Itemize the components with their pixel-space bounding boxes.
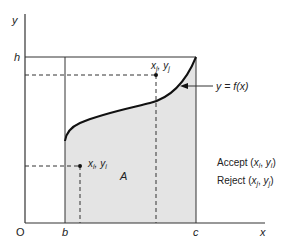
shaded-area-a xyxy=(65,57,196,223)
origin-label: O xyxy=(16,226,25,238)
b-label: b xyxy=(62,226,68,238)
reject-legend: Reject (xj, yj) xyxy=(217,175,274,188)
accepted-point-marker xyxy=(78,164,82,168)
c-label: c xyxy=(193,226,199,238)
accepted-point-label: xi, yi xyxy=(87,158,107,170)
h-label: h xyxy=(14,51,20,63)
monte-carlo-diagram: y h O b c x A y = f(x) xj, yj xi, yi Acc… xyxy=(0,0,295,248)
x-axis-label: x xyxy=(259,226,266,238)
accept-legend: Accept (xi, yi) xyxy=(217,157,276,169)
curve-label: y = f(x) xyxy=(215,80,248,92)
rejected-point-marker xyxy=(154,73,158,77)
y-axis-label: y xyxy=(11,14,19,26)
rejected-point-label: xj, yj xyxy=(150,60,170,73)
region-a-label: A xyxy=(119,170,127,182)
